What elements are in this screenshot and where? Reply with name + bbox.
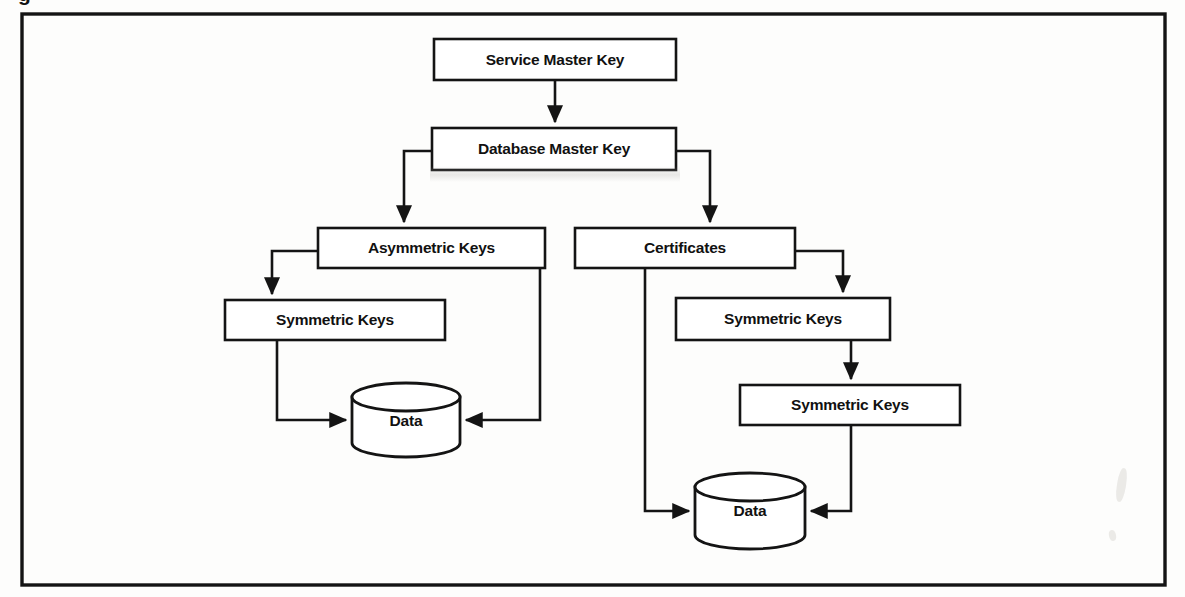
node-service-master-key[interactable]: Service Master Key bbox=[434, 39, 676, 80]
node-data-store-right[interactable]: Data bbox=[695, 473, 805, 549]
data-store-left-top bbox=[352, 383, 460, 411]
edge-asymmetric-to-data bbox=[466, 268, 540, 420]
node-asymmetric-keys[interactable]: Asymmetric Keys bbox=[318, 228, 545, 268]
certificates-label: Certificates bbox=[644, 239, 726, 256]
database-master-key-label: Database Master Key bbox=[478, 140, 631, 157]
edge-dmk-to-asymmetric bbox=[404, 151, 432, 222]
edge-dmk-to-certificates bbox=[676, 151, 710, 222]
encryption-hierarchy-diagram: Service Master Key Database Master Key A… bbox=[0, 0, 1185, 597]
edge-symmetric-lower-to-data bbox=[811, 425, 851, 511]
symmetric-keys-right-upper-label: Symmetric Keys bbox=[724, 310, 842, 327]
node-symmetric-keys-right-lower[interactable]: Symmetric Keys bbox=[740, 385, 960, 425]
node-certificates[interactable]: Certificates bbox=[575, 228, 795, 268]
data-store-right-label: Data bbox=[734, 502, 767, 519]
node-symmetric-keys-left[interactable]: Symmetric Keys bbox=[225, 300, 445, 340]
figure-frame bbox=[22, 14, 1165, 585]
figure-root: g bbox=[0, 0, 1185, 597]
node-data-store-left[interactable]: Data bbox=[352, 383, 460, 457]
edge-certificates-to-symmetric-upper bbox=[795, 251, 843, 292]
node-database-master-key[interactable]: Database Master Key bbox=[432, 128, 676, 170]
symmetric-keys-right-lower-label: Symmetric Keys bbox=[791, 396, 909, 413]
service-master-key-label: Service Master Key bbox=[486, 51, 625, 68]
data-store-right-top bbox=[695, 473, 805, 501]
node-symmetric-keys-right-upper[interactable]: Symmetric Keys bbox=[676, 298, 890, 340]
edge-asymmetric-to-symmetric-left bbox=[272, 251, 318, 294]
asymmetric-keys-label: Asymmetric Keys bbox=[368, 239, 495, 256]
symmetric-keys-left-label: Symmetric Keys bbox=[276, 311, 394, 328]
edge-symmetric-left-to-data bbox=[277, 340, 346, 420]
data-store-left-label: Data bbox=[390, 412, 423, 429]
